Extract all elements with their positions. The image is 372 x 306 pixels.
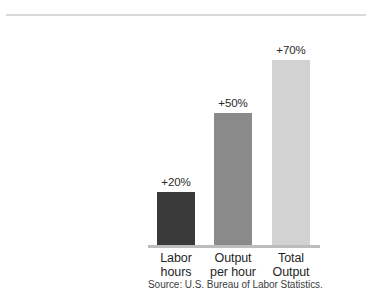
category-label-total-output: Total Output: [262, 251, 320, 279]
bar-item-total-output[interactable]: +70%: [262, 40, 320, 245]
category-label-line: Total: [262, 251, 320, 265]
plot-area: +20% +50% +70% Labor hours Output per ho…: [148, 20, 324, 248]
bar-rect[interactable]: [272, 60, 310, 245]
x-axis-baseline: [148, 245, 320, 248]
bar-item-labor-hours[interactable]: +20%: [148, 40, 204, 245]
category-axis-labels: Labor hours Output per hour Total Output: [148, 251, 320, 279]
bar-rect[interactable]: [157, 192, 195, 245]
bar-item-output-per-hour[interactable]: +50%: [204, 40, 262, 245]
category-label-output-per-hour: Output per hour: [204, 251, 262, 279]
bar-value-label: +20%: [161, 176, 190, 189]
category-label-line: Output: [204, 251, 262, 265]
source-note: Source: U.S. Bureau of Labor Statistics.: [148, 279, 323, 290]
category-label-line: hours: [148, 265, 204, 279]
bar-value-label: +70%: [276, 44, 305, 57]
bar-chart-figure: +20% +50% +70% Labor hours Output per ho…: [0, 0, 372, 306]
category-label-labor-hours: Labor hours: [148, 251, 204, 279]
bar-value-label: +50%: [218, 97, 247, 110]
top-divider-rule: [6, 14, 366, 16]
bar-rect[interactable]: [214, 113, 252, 245]
category-label-line: per hour: [204, 265, 262, 279]
bar-group: +20% +50% +70%: [148, 40, 320, 245]
category-label-line: Labor: [148, 251, 204, 265]
category-label-line: Output: [262, 265, 320, 279]
